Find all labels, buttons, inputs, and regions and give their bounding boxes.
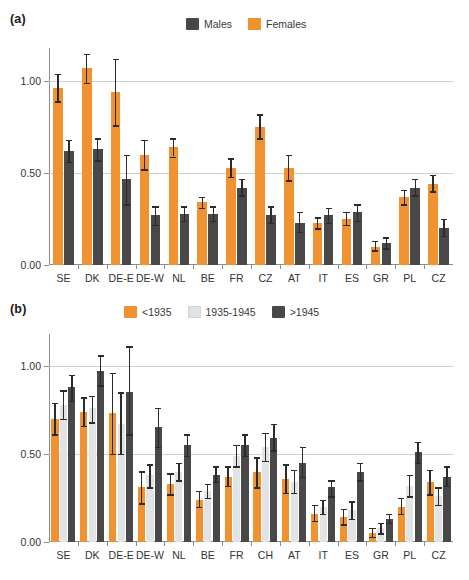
panel-b-bar-DK->1945[interactable] — [97, 371, 104, 542]
panel-b-errorcap-upper-DE-W->1945 — [155, 408, 161, 409]
panel-b-bar-SE->1945[interactable] — [68, 387, 75, 542]
panel-b-bar-SE-1935-1945[interactable] — [60, 405, 67, 542]
legend-a-label-1: Females — [266, 18, 306, 30]
legend-a-label-0: Males — [204, 18, 232, 30]
panel-b-errorcap-upper-PL-<1935 — [398, 498, 404, 499]
panel-b-bar-DK-1935-1945[interactable] — [89, 408, 96, 542]
panel-a-xtick-label-2: DE-E — [109, 272, 134, 284]
panel-a-errorcap-lower-NL-Females — [170, 157, 176, 158]
panel-a-bar-PL-Females[interactable] — [399, 197, 409, 265]
panel-a-bar-AT-Females[interactable] — [284, 168, 294, 265]
panel-b-errorcap-lower-GR-1935-1945 — [378, 533, 384, 534]
legend-b-entry-0[interactable]: <1935 — [124, 306, 172, 318]
panel-a-bar-SE-Males[interactable] — [64, 151, 74, 265]
panel-b-errorcap-upper-DE-E-<1935 — [110, 373, 116, 374]
panel-b-bar-ES->1945[interactable] — [357, 472, 364, 543]
panel-b-errorcap-lower-PL-<1935 — [398, 514, 404, 515]
panel-b-errorcap-lower-SE-<1935 — [52, 434, 58, 435]
panel-a-bar-DK-Females[interactable] — [82, 68, 92, 265]
panel-a-errorcap-lower-AT-Males — [297, 232, 303, 233]
panel-b-errorcap-upper-NL-<1935 — [167, 473, 173, 474]
legend-b-entry-1[interactable]: 1935-1945 — [188, 306, 256, 318]
panel-a-ytick-mark-2 — [44, 81, 49, 82]
panel-b-errorbar-NL-1935-1945 — [178, 463, 179, 481]
panel-b-bar-NL-1935-1945[interactable] — [175, 472, 182, 543]
panel-a-errorbar-BE-Females — [202, 197, 203, 208]
panel-a-errorbar-PL-Females — [404, 190, 405, 205]
panel-a-xtick-mark-8 — [309, 265, 310, 269]
panel-b-bar-FR->1945[interactable] — [241, 445, 248, 542]
panel-a-errorcap-lower-FR-Males — [239, 195, 245, 196]
panel-b-xtick-label-1: DK — [85, 549, 100, 561]
legend-a-entry-1[interactable]: Females — [248, 18, 306, 30]
panel-b-errorcap-lower-FR-<1935 — [225, 486, 231, 487]
panel-b-bar-FR-1935-1945[interactable] — [233, 456, 240, 542]
panel-b-errorcap-upper-FR-<1935 — [225, 466, 231, 467]
panel-b-xtick-mark-4 — [193, 542, 194, 546]
panel-a-bar-FR-Males[interactable] — [237, 188, 247, 265]
panel-b-errorcap-lower-AT->1945 — [300, 477, 306, 478]
panel-a-ytick-label-1: 0.50 — [21, 167, 41, 179]
panel-a-errorbar-DE-E-Males — [126, 155, 127, 205]
panel-b-errorbar-FR->1945 — [244, 434, 245, 455]
panel-a-errorcap-lower-GR-Males — [383, 248, 389, 249]
panel-b-errorbar-ES-1935-1945 — [351, 501, 352, 519]
panel-a-bar-DK-Males[interactable] — [93, 149, 103, 265]
panel-b-errorbar-IT-1935-1945 — [322, 500, 323, 514]
panel-a-bar-ES-Females[interactable] — [342, 219, 352, 265]
panel-b-errorcap-lower-DK-<1935 — [81, 426, 87, 427]
panel-b-bar-BE->1945[interactable] — [213, 475, 220, 542]
panel-b-errorcap-upper-ES->1945 — [357, 463, 363, 464]
panel-b-errorcap-lower-BE-<1935 — [196, 507, 202, 508]
panel-a-errorcap-upper-ES-Females — [343, 212, 349, 213]
panel-a-errorbar-IT-Males — [328, 208, 329, 223]
panel-b-bar-SE-<1935[interactable] — [51, 419, 58, 542]
panel-b-errorcap-upper-DE-E-1935-1945 — [118, 392, 124, 393]
legend-a-entry-0[interactable]: Males — [186, 18, 232, 30]
panel-a-errorbar-AT-Females — [288, 155, 289, 181]
panel-a-xtick-mark-12 — [424, 265, 425, 269]
panel-b-bar-NL->1945[interactable] — [184, 445, 191, 542]
panel-a-errorbar-CZ-Males — [443, 219, 444, 236]
panel-a-errorcap-upper-GR-Males — [383, 237, 389, 238]
panel-b-errorbar-AT-1935-1945 — [294, 470, 295, 493]
panel-a-xtick-mark-1 — [107, 265, 108, 269]
panel-b-bar-CH->1945[interactable] — [270, 438, 277, 542]
panel-a-xtick-label-12: PL — [403, 272, 416, 284]
panel-b-errorcap-lower-AT-<1935 — [283, 493, 289, 494]
panel-b-errorcap-upper-NL-1935-1945 — [176, 463, 182, 464]
panel-b-errorbar-BE-1935-1945 — [207, 484, 208, 498]
panel-b-errorcap-upper-AT-<1935 — [283, 464, 289, 465]
panel-a-errorcap-upper-NL-Males — [181, 206, 187, 207]
panel-b-errorbar-PL-1935-1945 — [409, 475, 410, 496]
panel-b-bar-DK-<1935[interactable] — [80, 412, 87, 542]
panel-b-errorcap-upper-FR-1935-1945 — [233, 445, 239, 446]
panel-b-bar-PL->1945[interactable] — [415, 452, 422, 542]
panel-a-errorcap-upper-AT-Females — [286, 155, 292, 156]
panel-a-xtick-mark-4 — [193, 265, 194, 269]
legend-b-entry-2[interactable]: >1945 — [272, 306, 320, 318]
panel-a-bar-CZ-Females[interactable] — [428, 184, 438, 265]
legend-b-label-0: <1935 — [142, 306, 172, 318]
panel-a-bar-FR-Females[interactable] — [226, 168, 236, 265]
panel-b-errorcap-lower-CZ-<1935 — [427, 494, 433, 495]
panel-a-bar-SE-Females[interactable] — [53, 88, 63, 265]
panel-b-xtick-label-0: SE — [56, 549, 70, 561]
panel-b-errorcap-upper-AT-1935-1945 — [291, 470, 297, 471]
panel-a-bar-NL-Females[interactable] — [169, 147, 179, 265]
panel-a-xtick-mark-9 — [338, 265, 339, 269]
panel-a-bar-BE-Females[interactable] — [197, 202, 207, 265]
panel-a-gridline-1 — [49, 173, 453, 174]
panel-b-errorcap-lower-NL-1935-1945 — [176, 480, 182, 481]
panel-a-errorbar-DE-E-Females — [115, 59, 116, 125]
panel-a-bar-PL-Males[interactable] — [410, 188, 420, 265]
panel-a-bar-DE-W-Females[interactable] — [140, 155, 150, 265]
panel-a-errorbar-ES-Males — [357, 204, 358, 221]
panel-a-ytick-label-2: 1.00 — [21, 75, 41, 87]
panel-a-bar-CZ-Females[interactable] — [255, 127, 265, 265]
panel-a-errorcap-lower-DK-Males — [95, 160, 101, 161]
panel-a-ytick-mark-1 — [44, 173, 49, 174]
panel-a-errorcap-upper-PL-Males — [412, 179, 418, 180]
panel-b-errorcap-upper-CH-1935-1945 — [262, 433, 268, 434]
panel-b-errorcap-lower-ES->1945 — [357, 480, 363, 481]
